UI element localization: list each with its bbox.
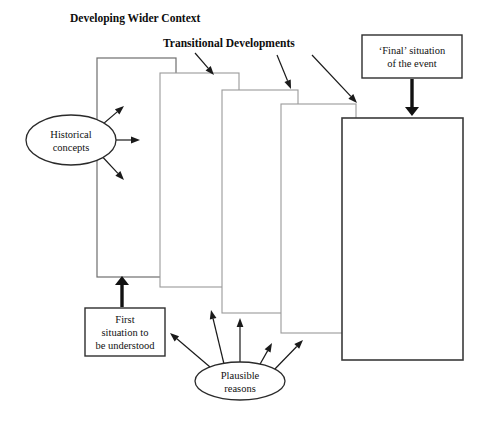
plausible-reasons-label-line-1: Plausible <box>221 370 260 381</box>
transitional-to-stage2-line <box>195 53 208 68</box>
final-situation-label-line-2: of the event <box>387 58 437 69</box>
plausible-left-head <box>210 310 217 320</box>
plausible-up-head <box>237 318 244 327</box>
transitional-to-stage3-head <box>284 79 291 89</box>
historical-concepts-label-line-2: concepts <box>53 142 90 153</box>
plausible-reasons-ellipse <box>195 362 285 400</box>
plausible-far-right-line <box>272 346 297 372</box>
plausible-left-line <box>213 319 224 364</box>
developing-wider-context-heading: Developing Wider Context <box>70 12 201 25</box>
plausible-reasons-label-line-2: reasons <box>224 383 256 394</box>
plausible-right-head <box>265 343 272 353</box>
transitional-to-stage4-line <box>312 55 351 96</box>
transitional-to-stage3-line <box>277 55 288 81</box>
diagram-svg: ‘Final’ situationof the eventFirstsituat… <box>0 0 485 423</box>
historical-concepts-label-line-1: Historical <box>50 129 91 140</box>
final-to-stage5-head <box>405 107 419 116</box>
final-situation-box <box>362 35 462 78</box>
transitional-developments-heading: Transitional Developments <box>163 37 295 50</box>
stage-rect-5 <box>342 118 463 360</box>
final-situation-label-line-1: ‘Final’ situation <box>379 45 446 56</box>
diagram-canvas: ‘Final’ situationof the eventFirstsituat… <box>0 0 485 423</box>
first-situation-label-line-1: First <box>115 314 134 325</box>
historical-concepts-ellipse <box>26 115 116 165</box>
heading-layer: Developing Wider ContextTransitional Dev… <box>70 12 295 50</box>
plausible-far-left-line <box>177 339 210 367</box>
first-situation-label-line-3: be understood <box>95 340 155 351</box>
first-situation-label-line-2: situation to <box>102 327 149 338</box>
